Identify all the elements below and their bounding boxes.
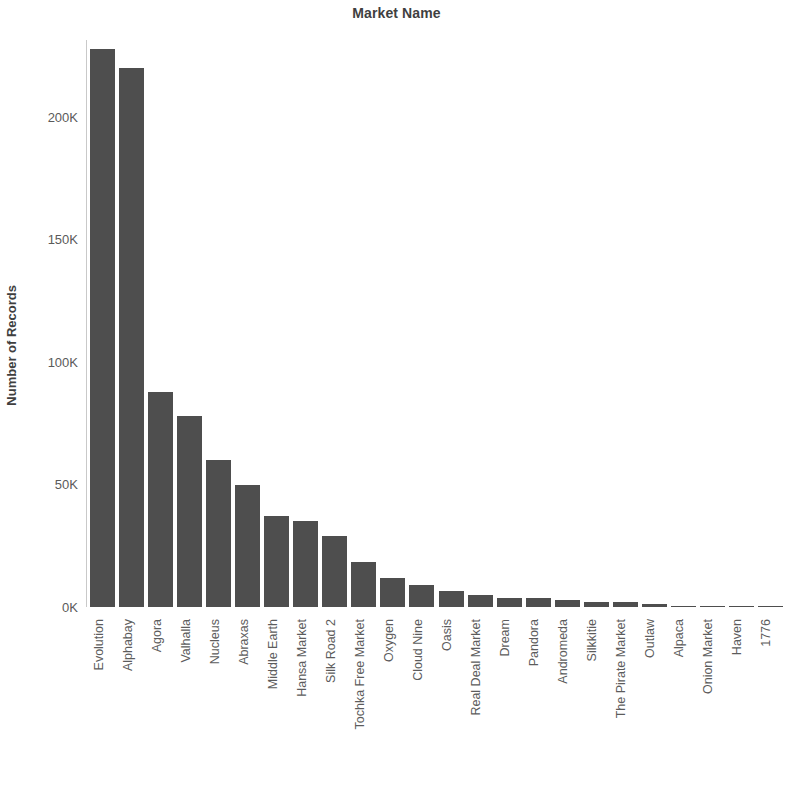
x-axis-category-label: Silkkitie bbox=[585, 619, 599, 661]
bar[interactable] bbox=[264, 516, 289, 607]
x-axis-category-label: Pandora bbox=[527, 619, 541, 666]
x-axis-category-label: Outlaw bbox=[643, 618, 657, 658]
x-axis-category-label: Haven bbox=[730, 619, 744, 655]
bar[interactable] bbox=[700, 606, 725, 607]
bar[interactable] bbox=[526, 598, 551, 607]
bar[interactable] bbox=[409, 585, 434, 607]
bar[interactable] bbox=[206, 460, 231, 607]
x-axis-category-label: Oxygen bbox=[382, 619, 396, 662]
bar[interactable] bbox=[671, 606, 696, 607]
x-axis-category-label: Cloud Nine bbox=[411, 619, 425, 681]
x-axis-category-label: The Pirate Market bbox=[614, 618, 628, 718]
bar[interactable] bbox=[439, 591, 464, 607]
x-axis-category-label: Hansa Market bbox=[295, 618, 309, 696]
bar[interactable] bbox=[642, 604, 667, 607]
x-axis-category-label: Onion Market bbox=[701, 618, 715, 694]
bar[interactable] bbox=[293, 521, 318, 607]
bar[interactable] bbox=[758, 606, 783, 607]
y-axis-tick-label: 50K bbox=[55, 477, 78, 492]
x-axis-category-label: Abraxas bbox=[237, 619, 251, 665]
bar[interactable] bbox=[468, 595, 493, 607]
y-axis-tick-label: 100K bbox=[48, 355, 79, 370]
x-axis-category-label: Andromeda bbox=[556, 619, 570, 684]
x-axis-category-label: 1776 bbox=[759, 619, 773, 647]
x-axis-category-label: Evolution bbox=[92, 619, 106, 670]
bar[interactable] bbox=[729, 606, 754, 607]
bar[interactable] bbox=[555, 600, 580, 607]
x-axis-category-label: Agora bbox=[150, 619, 164, 652]
x-axis-category-label: Silk Road 2 bbox=[324, 619, 338, 683]
bar[interactable] bbox=[148, 392, 173, 607]
bar[interactable] bbox=[497, 598, 522, 607]
bar[interactable] bbox=[119, 68, 144, 607]
x-axis-category-label: Middle Earth bbox=[266, 619, 280, 689]
x-axis-category-label: Oasis bbox=[440, 619, 454, 651]
x-axis-category-label: Valhalla bbox=[179, 619, 193, 663]
bar[interactable] bbox=[90, 49, 115, 607]
y-axis-tick-label: 150K bbox=[48, 232, 79, 247]
x-axis-category-label: Dream bbox=[498, 619, 512, 657]
bar[interactable] bbox=[613, 602, 638, 607]
plot-area: 0K50K100K150K200KEvolutionAlphabayAgoraV… bbox=[0, 0, 793, 801]
bar[interactable] bbox=[380, 578, 405, 607]
x-axis-category-label: Alphabay bbox=[121, 618, 135, 671]
x-axis-category-label: Real Deal Market bbox=[469, 618, 483, 715]
y-axis-tick-label: 200K bbox=[48, 110, 79, 125]
x-axis-category-label: Alpaca bbox=[672, 619, 686, 657]
bar-chart: Market Name Number of Records 0K50K100K1… bbox=[0, 0, 793, 801]
bar[interactable] bbox=[351, 562, 376, 607]
y-axis-tick-label: 0K bbox=[62, 600, 78, 615]
bar[interactable] bbox=[584, 602, 609, 607]
bar[interactable] bbox=[177, 416, 202, 607]
bar[interactable] bbox=[235, 485, 260, 607]
bar[interactable] bbox=[322, 536, 347, 607]
x-axis-category-label: Nucleus bbox=[208, 619, 222, 664]
x-axis-category-label: Tochka Free Market bbox=[353, 618, 367, 729]
